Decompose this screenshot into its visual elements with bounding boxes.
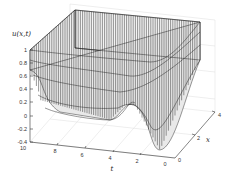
t-tick-labels: 10 8 6 4 2 0 <box>20 145 167 167</box>
surface-mesh <box>30 10 200 150</box>
svg-text:0.4: 0.4 <box>19 86 27 92</box>
x-axis-label: x <box>206 136 210 144</box>
svg-text:6: 6 <box>80 152 83 158</box>
svg-text:0: 0 <box>178 157 181 163</box>
svg-text:0: 0 <box>24 113 27 119</box>
t-axis <box>30 142 175 158</box>
surface-plot: 1 0.8 0.6 0.4 0.2 0 -0.2 -0.4 10 8 6 4 2… <box>0 0 230 175</box>
svg-text:1: 1 <box>24 47 27 53</box>
z-tick-labels: 1 0.8 0.6 0.4 0.2 0 -0.2 -0.4 <box>18 47 27 145</box>
svg-text:4: 4 <box>108 155 111 161</box>
svg-text:0: 0 <box>163 161 166 167</box>
svg-text:0.8: 0.8 <box>19 60 27 66</box>
svg-text:4: 4 <box>218 112 221 118</box>
svg-text:0.2: 0.2 <box>19 99 27 105</box>
svg-text:10: 10 <box>20 145 26 151</box>
svg-text:-0.2: -0.2 <box>18 126 27 132</box>
svg-text:2: 2 <box>197 135 200 141</box>
x-tick-labels: 0 2 4 <box>178 112 221 163</box>
svg-text:2: 2 <box>135 158 138 164</box>
z-axis-label: u(x,t) <box>12 30 31 38</box>
svg-text:8: 8 <box>53 148 56 154</box>
t-axis-label: t <box>111 165 114 173</box>
svg-text:0.6: 0.6 <box>19 73 27 79</box>
